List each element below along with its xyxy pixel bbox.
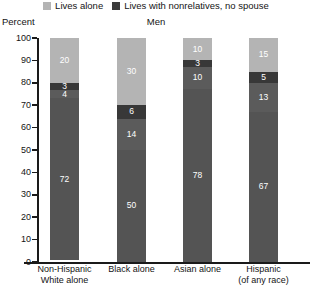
bar-segment-value: 14 — [127, 130, 136, 139]
bar-segment-value: 78 — [193, 171, 202, 180]
bar-segment-value: 30 — [127, 67, 136, 76]
x-axis-category-labels: Non-HispanicWhite aloneBlack aloneAsian … — [37, 264, 310, 294]
plot-area: 0102030405060708090100 20347230614501031… — [0, 30, 312, 278]
bar-segment[interactable]: 14 — [117, 119, 146, 150]
legend-item-lives-with-nonrelatives: Lives with nonrelatives, no spouse — [112, 1, 269, 11]
bar-segment-value: 10 — [193, 45, 202, 54]
square-swatch-icon — [43, 2, 51, 10]
legend-label: Lives with nonrelatives, no spouse — [124, 1, 269, 11]
bar-segment[interactable]: 3 — [183, 60, 212, 67]
bar-segment-value: 5 — [261, 73, 266, 82]
bar-stack[interactable]: 3061450 — [117, 38, 146, 262]
bar-stack[interactable]: 1031078 — [183, 38, 212, 262]
bar-segment-value: 50 — [127, 201, 136, 210]
bar-segment[interactable]: 20 — [50, 38, 79, 83]
bar-segment[interactable]: 6 — [117, 105, 146, 118]
category-label-line: (of any race) — [224, 275, 304, 286]
bar-segment[interactable]: 10 — [183, 38, 212, 60]
bar-segment-value: 15 — [259, 50, 268, 59]
bar-segment-value: 20 — [60, 56, 69, 65]
bar-segment[interactable]: 13 — [249, 83, 278, 112]
bar-segment[interactable]: 15 — [249, 38, 278, 72]
bar-segment-value: 13 — [259, 93, 268, 102]
bar-segment-value: 6 — [129, 107, 134, 116]
legend-item-lives-alone: Lives alone — [43, 1, 103, 11]
bar-segment[interactable]: 10 — [183, 67, 212, 89]
bar-segment-value: 72 — [60, 175, 69, 184]
bar-stack[interactable]: 1551367 — [249, 38, 278, 262]
category-label-line: White alone — [25, 275, 105, 286]
bar-stack[interactable]: 203472 — [50, 38, 79, 262]
bar-segment[interactable]: 4 — [50, 90, 79, 99]
bar-segment[interactable]: 50 — [117, 150, 146, 262]
square-swatch-icon — [112, 2, 120, 10]
bar-segment-value: 10 — [193, 73, 202, 82]
bar-segment[interactable]: 30 — [117, 38, 146, 105]
x-axis-category-label: Hispanic(of any race) — [224, 264, 304, 286]
category-label-line: Hispanic — [224, 264, 304, 275]
chart-title: Men — [0, 16, 312, 27]
chart-legend: Lives alone Lives with nonrelatives, no … — [0, 1, 312, 11]
legend-label: Lives alone — [55, 1, 103, 11]
bar-group: 203472306145010310781551367 — [37, 38, 310, 262]
bar-segment[interactable]: 67 — [249, 112, 278, 262]
bar-segment-value: 67 — [259, 182, 268, 191]
bar-segment-value: 4 — [62, 90, 67, 99]
bar-segment[interactable]: 5 — [249, 72, 278, 83]
bar-segment[interactable]: 72 — [50, 98, 79, 259]
bar-segment[interactable]: 78 — [183, 89, 212, 262]
